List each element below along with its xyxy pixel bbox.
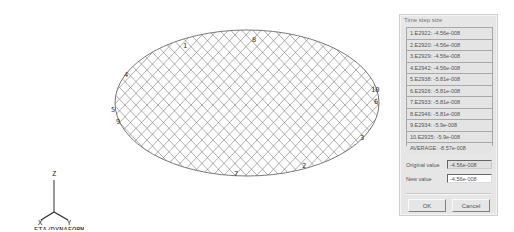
element-list[interactable]: 1.E2922: -4.56e-008 2.E2920: -4.56e-008 … (406, 27, 493, 146)
cancel-button[interactable]: Cancel (452, 199, 490, 212)
original-value-row: Original value -4.56e-008 (406, 160, 494, 171)
list-item[interactable]: 1.E2922: -4.56e-008 (407, 28, 492, 40)
model-viewport[interactable]: 18459106372 Z X Y ETA/DYNAFORM (0, 0, 385, 232)
node-label: 1 (183, 42, 187, 50)
new-value-label: New value (406, 176, 432, 182)
node-label: 6 (374, 98, 378, 106)
list-item[interactable]: 3.E2929: -4.56e-008 (407, 51, 492, 63)
list-item[interactable]: 9.E2934: -5.9e-008 (407, 120, 492, 132)
divider (406, 193, 491, 195)
average-item[interactable]: AVERAGE: -8.57e-008 (407, 143, 492, 154)
dialog-title: Time step size (404, 17, 442, 23)
node-label: 9 (116, 118, 120, 126)
y-axis-line (54, 212, 68, 220)
z-axis-label: Z (52, 170, 56, 178)
axis-triad: Z X Y ETA/DYNAFORM (4, 170, 84, 230)
list-item[interactable]: 7.E2933: -5.81e-008 (407, 97, 492, 109)
new-value-row: New value -4.56e-008 (406, 174, 494, 185)
new-value-input[interactable]: -4.56e-008 (447, 174, 492, 183)
time-step-size-dialog: Time step size 1.E2922: -4.56e-008 2.E29… (399, 14, 498, 216)
node-label: 5 (111, 106, 115, 114)
node-label: 7 (234, 170, 238, 178)
node-label: 4 (124, 71, 128, 79)
node-label: 8 (252, 36, 256, 44)
node-label: 2 (302, 162, 306, 170)
list-item[interactable]: 5.E2938: -5.81e-008 (407, 74, 492, 86)
brand-label: ETA/DYNAFORM (34, 226, 84, 230)
x-axis-line (41, 212, 54, 220)
list-item[interactable]: 2.E2920: -4.56e-008 (407, 40, 492, 52)
node-label: 10 (371, 86, 379, 94)
original-value-label: Original value (406, 162, 440, 168)
original-value-field: -4.56e-008 (447, 160, 492, 169)
node-label: 3 (360, 134, 364, 142)
list-item[interactable]: 4.E2942: -4.56e-008 (407, 63, 492, 75)
list-item[interactable]: 10.E2925: -5.9e-008 (407, 132, 492, 144)
list-item[interactable]: 6.E2926: -5.81e-008 (407, 86, 492, 98)
ok-button[interactable]: OK (408, 199, 446, 212)
list-item[interactable]: 8.E2946: -5.81e-008 (407, 109, 492, 121)
